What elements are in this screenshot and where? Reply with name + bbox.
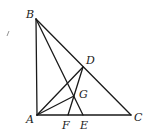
label-d: D [85,54,95,67]
label-f: F [61,119,70,132]
segment-be [36,19,83,115]
geometry-diagram: B D G A F E C [0,0,149,135]
segment-ab [36,19,37,115]
stray-mark [7,31,9,36]
label-e: E [79,119,88,132]
label-a: A [25,113,34,126]
label-c: C [134,111,143,124]
label-b: B [25,8,34,21]
label-g: G [79,88,88,101]
